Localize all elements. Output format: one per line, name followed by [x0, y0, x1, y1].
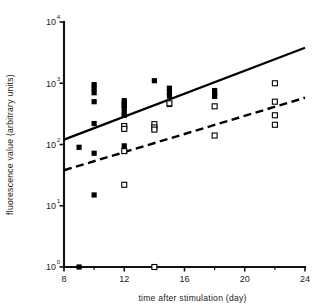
data-point-filled [92, 90, 97, 95]
x-tick-label: 20 [240, 274, 250, 284]
data-point-filled [152, 78, 157, 83]
data-point-open [272, 99, 277, 104]
x-tick-label: 16 [179, 274, 189, 284]
data-point-open [212, 104, 217, 109]
chart-figure: 100101102103104812162024time after stimu… [0, 0, 317, 308]
y-tick-label: 10 [46, 262, 56, 272]
data-point-filled [76, 145, 81, 150]
data-point-open [122, 149, 127, 154]
y-tick-label: 10 [46, 17, 56, 27]
data-point-filled [76, 264, 81, 269]
data-point-filled [92, 121, 97, 126]
scatter-plot: 100101102103104812162024time after stimu… [0, 0, 317, 308]
y-tick-exponent: 1 [57, 197, 61, 204]
data-point-open [167, 101, 172, 106]
data-point-open [272, 113, 277, 118]
y-tick-label: 10 [46, 79, 56, 89]
data-points [76, 78, 277, 269]
data-point-open [272, 122, 277, 127]
data-point-filled [212, 94, 217, 99]
data-point-filled [92, 99, 97, 104]
y-tick-label: 10 [46, 201, 56, 211]
x-tick-label: 12 [119, 274, 129, 284]
trend-line-solid [64, 48, 305, 140]
data-point-open [122, 182, 127, 187]
trend-line-dashed [64, 98, 305, 170]
data-point-filled [92, 192, 97, 197]
y-tick-exponent: 2 [57, 136, 61, 143]
y-tick-exponent: 0 [57, 258, 61, 265]
data-point-filled [122, 143, 127, 148]
data-point-filled [122, 106, 127, 111]
data-point-open [152, 127, 157, 132]
y-tick-exponent: 4 [57, 13, 61, 20]
data-point-open [152, 265, 157, 270]
data-point-filled [92, 151, 97, 156]
x-tick-label: 8 [61, 274, 66, 284]
y-axis-title: fluorescence value (arbitrary units) [5, 74, 15, 215]
data-point-open [272, 81, 277, 86]
x-axis-title: time after stimulation (day) [138, 293, 246, 303]
axis-labels: 100101102103104812162024time after stimu… [5, 13, 310, 303]
x-tick-label: 24 [300, 274, 310, 284]
y-tick-label: 10 [46, 140, 56, 150]
data-point-filled [122, 113, 127, 118]
data-point-open [212, 133, 217, 138]
data-point-open [122, 126, 127, 131]
data-point-filled [167, 93, 172, 98]
axes [60, 22, 306, 272]
y-tick-exponent: 3 [57, 75, 61, 82]
trend-lines [64, 48, 305, 171]
